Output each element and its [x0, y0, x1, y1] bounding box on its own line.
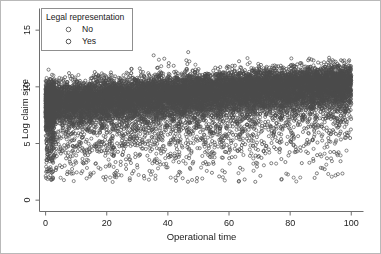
- legend-item-no[interactable]: No: [46, 23, 128, 35]
- legend-item-yes[interactable]: Yes: [46, 35, 128, 47]
- legend-box: Legal representation No Yes: [41, 8, 133, 51]
- open-circle-icon: [64, 37, 73, 46]
- open-circle-icon: [64, 25, 73, 34]
- scatter-plot-figure: 051015 020406080100 Log claim size Opera…: [0, 0, 381, 254]
- x-tick-label: 40: [155, 218, 181, 228]
- legend-title: Legal representation: [46, 12, 128, 23]
- y-axis-label: Log claim size: [17, 4, 33, 214]
- legend-item-label: No: [82, 23, 93, 35]
- x-tick-label: 0: [33, 218, 59, 228]
- x-tick-label: 100: [338, 218, 364, 228]
- x-tick-label: 20: [94, 218, 120, 228]
- legend-item-label: Yes: [82, 35, 96, 47]
- x-axis-label: Operational time: [39, 231, 364, 242]
- x-tick-label: 60: [216, 218, 242, 228]
- x-tick-label: 80: [277, 218, 303, 228]
